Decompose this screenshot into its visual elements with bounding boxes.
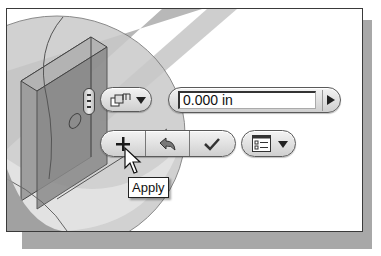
chevron-down-icon — [278, 141, 288, 148]
action-button-group — [100, 130, 236, 157]
divider — [322, 90, 323, 111]
ok-button[interactable] — [189, 131, 234, 156]
toolbar-grip-handle[interactable] — [83, 88, 95, 115]
chevron-down-icon — [136, 97, 146, 104]
undo-arrow-icon — [158, 136, 178, 152]
extents-mode-dropdown[interactable] — [100, 87, 152, 112]
graphics-window — [6, 8, 363, 232]
checkmark-icon — [203, 137, 221, 151]
play-right-icon[interactable] — [327, 95, 335, 105]
extrude-distance-icon — [110, 92, 132, 108]
arrow-pointer-icon — [124, 147, 144, 177]
list-options-icon — [252, 135, 272, 153]
screenshot-stage: 0.000 in — [0, 0, 381, 256]
distance-input-control[interactable]: 0.000 in — [168, 87, 341, 113]
options-dropdown[interactable] — [241, 130, 296, 157]
apply-tooltip: Apply — [128, 177, 169, 198]
distance-input[interactable]: 0.000 in — [178, 91, 316, 109]
3d-viewport[interactable] — [7, 9, 362, 231]
revert-button[interactable] — [145, 131, 190, 156]
